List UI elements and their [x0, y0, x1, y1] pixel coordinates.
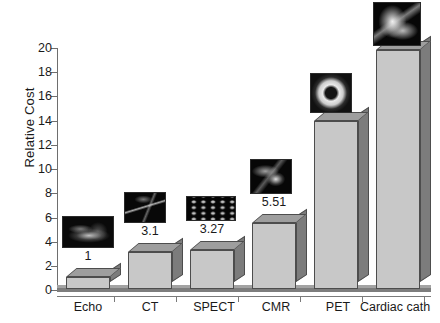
y-tick-6: [51, 218, 58, 219]
x-label-cardiac-cath: Cardiac cath: [360, 300, 430, 314]
y-tick-18: [51, 72, 58, 73]
bar-echo[interactable]: [66, 265, 110, 289]
y-tick-2: [51, 266, 58, 267]
y-axis-ticks: 20 18 16 14 12 10 8 6 4 2 0: [0, 0, 52, 323]
y-tick-4: [51, 242, 58, 243]
value-label-cmr: 5.51: [262, 195, 286, 209]
y-tick-label-20: 20: [8, 42, 52, 55]
value-label-spect: 3.27: [200, 222, 224, 236]
y-tick-label-0: 0: [8, 284, 52, 297]
bar-pet[interactable]: [314, 109, 358, 289]
y-tick-label-10: 10: [8, 163, 52, 176]
x-label-cmr: CMR: [262, 300, 290, 314]
pet-perfusion-ring-image: [311, 74, 351, 112]
cardiac-mr-thumbnail: [250, 159, 292, 194]
x-label-echo: Echo: [74, 300, 103, 314]
x-label-pet: PET: [326, 300, 350, 314]
bar-cmr[interactable]: [252, 211, 296, 289]
cardiac-mr-image: [251, 160, 291, 193]
spect-slice-grid-thumbnail: [186, 196, 236, 221]
ct-angiogram-image: [125, 193, 165, 222]
value-label-echo: 1: [85, 249, 92, 263]
y-tick-label-8: 8: [8, 187, 52, 200]
bar-spect-front: [190, 250, 234, 289]
echocardiogram-thumbnail: [62, 216, 114, 248]
y-tick-8: [51, 193, 58, 194]
bar-echo-front: [66, 277, 110, 289]
bar-cardiac-cath-side: [420, 36, 431, 282]
bar-cmr-front: [252, 223, 296, 289]
y-tick-label-4: 4: [8, 236, 52, 249]
bar-ct-front: [128, 252, 172, 289]
x-label-spect: SPECT: [193, 300, 235, 314]
x-tick-4: [300, 296, 301, 302]
spect-slice-grid-image: [187, 197, 235, 220]
bar-pet-front: [314, 121, 358, 289]
y-tick-12: [51, 145, 58, 146]
bar-ct[interactable]: [128, 240, 172, 289]
x-tick-3: [238, 296, 239, 302]
y-tick-14: [51, 121, 58, 122]
y-tick-label-14: 14: [8, 115, 52, 128]
pet-perfusion-ring-thumbnail: [310, 73, 352, 113]
x-label-ct: CT: [142, 300, 159, 314]
x-tick-2: [176, 296, 177, 302]
bar-cardiac-cath-front: [376, 50, 420, 289]
y-tick-20: [51, 48, 58, 49]
cardiac-catheterization-thumbnail: [373, 2, 421, 46]
echocardiogram-image: [63, 217, 113, 247]
chart-floor: [57, 285, 431, 292]
y-tick-10: [51, 169, 58, 170]
x-tick-1: [114, 296, 115, 302]
relative-cost-bar-chart: Relative Cost 20 18 16 14 12 10 8 6 4 2 …: [0, 0, 440, 323]
y-tick-label-18: 18: [8, 66, 52, 79]
y-tick-label-2: 2: [8, 260, 52, 273]
bar-spect[interactable]: [190, 238, 234, 289]
bar-pet-side: [358, 107, 369, 282]
value-label-ct: 3.1: [141, 224, 158, 238]
cardiac-catheterization-image: [374, 3, 420, 45]
y-tick-16: [51, 96, 58, 97]
y-tick-label-12: 12: [8, 139, 52, 152]
y-tick-label-16: 16: [8, 90, 52, 103]
y-tick-label-6: 6: [8, 212, 52, 225]
ct-angiogram-thumbnail: [124, 192, 166, 223]
bar-cardiac-cath[interactable]: [376, 38, 420, 289]
